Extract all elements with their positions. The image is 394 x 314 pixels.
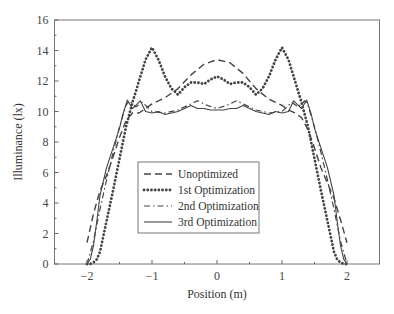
x-tick-label: −1 xyxy=(146,269,159,283)
x-tick-label: −2 xyxy=(81,269,94,283)
legend-label: 3rd Optimization xyxy=(178,216,257,229)
legend-label: Unoptimized xyxy=(178,168,238,181)
x-axis: −2−1012 xyxy=(55,260,380,283)
line-chart: −2−1012 0246810121416 Position (m) Illum… xyxy=(0,0,394,314)
y-tick-label: 12 xyxy=(37,74,49,88)
y-axis: 0246810121416 xyxy=(37,13,59,271)
y-tick-label: 0 xyxy=(43,257,49,271)
y-tick-label: 6 xyxy=(43,166,49,180)
x-axis-label: Position (m) xyxy=(187,287,247,301)
legend-label: 1st Optimization xyxy=(178,184,255,197)
y-tick-label: 2 xyxy=(43,227,49,241)
legend-label: 2nd Optimization xyxy=(178,200,259,213)
legend: Unoptimized1st Optimization2nd Optimizat… xyxy=(138,162,259,233)
x-tick-label: 2 xyxy=(344,269,350,283)
y-tick-label: 14 xyxy=(37,44,49,58)
x-tick-label: 0 xyxy=(214,269,220,283)
y-tick-label: 10 xyxy=(37,105,49,119)
y-axis-label: Illuminance (lx) xyxy=(11,103,25,181)
y-tick-label: 8 xyxy=(43,135,49,149)
y-tick-label: 4 xyxy=(43,196,49,210)
x-tick-label: 1 xyxy=(279,269,285,283)
y-tick-label: 16 xyxy=(37,13,49,27)
